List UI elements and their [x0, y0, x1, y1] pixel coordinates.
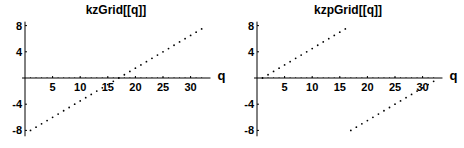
data-point	[146, 61, 148, 63]
data-point	[339, 31, 341, 33]
x-tick-label: 20	[129, 81, 141, 93]
y-tick-label: 4	[16, 46, 23, 58]
y-tick-label: 8	[248, 20, 254, 32]
data-point	[201, 28, 203, 30]
data-point	[361, 123, 363, 125]
x-tick-label: 10	[74, 81, 86, 93]
data-point	[367, 120, 369, 122]
y-tick-label: -4	[244, 98, 255, 110]
x-axis-label: q	[217, 68, 225, 83]
data-point	[317, 44, 319, 46]
data-point	[179, 41, 181, 43]
data-point	[30, 130, 32, 132]
data-point	[190, 35, 192, 37]
data-point	[112, 80, 114, 82]
plot-kzpgrid: kzpGrid[[q]]5101520253084-4-8q	[232, 0, 464, 148]
data-point	[85, 97, 87, 99]
data-point	[157, 54, 159, 56]
data-point	[101, 87, 103, 89]
chart-canvas: kzpGrid[[q]]5101520253084-4-8q	[232, 0, 464, 148]
data-point	[344, 28, 346, 30]
data-point	[184, 38, 186, 40]
data-point	[68, 107, 70, 109]
chart-canvas: kzGrid[[q]]5101520253084-4-8q	[0, 0, 232, 148]
data-point	[306, 51, 308, 53]
data-point	[74, 103, 76, 105]
data-point	[355, 126, 357, 128]
data-point	[41, 123, 43, 125]
x-tick-label: 5	[50, 81, 56, 93]
data-point	[195, 31, 197, 33]
data-point	[57, 113, 59, 115]
y-tick-label: -4	[12, 98, 23, 110]
data-point	[333, 35, 335, 37]
x-axis-label: q	[449, 68, 457, 83]
data-point	[96, 90, 98, 92]
data-point	[433, 80, 435, 82]
data-point	[389, 107, 391, 109]
x-tick-label: 25	[389, 81, 401, 93]
data-point	[90, 93, 92, 95]
x-tick-label: 20	[361, 81, 373, 93]
x-tick-label: 15	[102, 81, 114, 93]
x-tick-label: 30	[184, 81, 196, 93]
data-point	[173, 44, 175, 46]
data-point	[35, 126, 37, 128]
x-tick-label: 15	[334, 81, 346, 93]
data-point	[405, 97, 407, 99]
data-point	[123, 74, 125, 76]
data-point	[52, 116, 54, 118]
data-point	[267, 74, 269, 76]
data-point	[151, 57, 153, 59]
data-point	[63, 110, 65, 112]
y-tick-label: 4	[248, 46, 255, 58]
data-point	[400, 100, 402, 102]
y-tick-label: -8	[12, 124, 22, 136]
data-point	[162, 51, 164, 53]
data-point	[262, 77, 264, 79]
data-point	[394, 103, 396, 105]
plot-kzgrid: kzGrid[[q]]5101520253084-4-8q	[0, 0, 232, 148]
data-point	[378, 113, 380, 115]
data-point	[328, 38, 330, 40]
chart-title: kzpGrid[[q]]	[314, 3, 382, 17]
x-tick-label: 5	[282, 81, 288, 93]
x-tick-label: 10	[306, 81, 318, 93]
data-point	[311, 48, 313, 50]
data-point	[135, 67, 137, 69]
data-point	[289, 61, 291, 63]
data-point	[107, 84, 109, 86]
data-point	[416, 90, 418, 92]
y-tick-label: 8	[16, 20, 22, 32]
data-point	[129, 71, 131, 73]
data-point	[295, 57, 297, 59]
data-point	[168, 48, 170, 50]
data-point	[350, 130, 352, 132]
data-point	[79, 100, 81, 102]
data-point	[322, 41, 324, 43]
data-point	[273, 71, 275, 73]
data-point	[300, 54, 302, 56]
y-tick-label: -8	[244, 124, 254, 136]
x-tick-label: 25	[157, 81, 169, 93]
data-point	[284, 64, 286, 66]
data-point	[383, 110, 385, 112]
data-point	[422, 87, 424, 89]
data-point	[411, 93, 413, 95]
data-point	[46, 120, 48, 122]
data-point	[278, 67, 280, 69]
data-point	[372, 116, 374, 118]
data-point	[118, 77, 120, 79]
data-point	[427, 84, 429, 86]
chart-title: kzGrid[[q]]	[86, 3, 147, 17]
data-point	[140, 64, 142, 66]
